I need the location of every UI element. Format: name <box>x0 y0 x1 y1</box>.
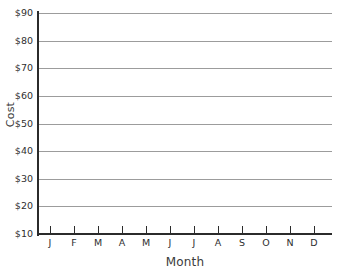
x-axis-tick-label: J <box>184 238 204 248</box>
x-axis-tick-label: M <box>88 238 108 248</box>
x-axis-tick-group: JFMAMJJASOND <box>0 0 342 279</box>
x-axis-tick-label: M <box>136 238 156 248</box>
x-axis-tick-label: A <box>208 238 228 248</box>
x-axis-tick-label: N <box>280 238 300 248</box>
x-axis-tick-label: A <box>112 238 132 248</box>
x-axis-tick-label: J <box>40 238 60 248</box>
x-axis-tick-mark <box>314 226 315 234</box>
x-axis-title: Month <box>38 255 332 269</box>
x-axis-tick-mark <box>194 226 195 234</box>
x-axis-tick-mark <box>242 226 243 234</box>
x-axis-tick-mark <box>50 226 51 234</box>
x-axis-tick-label: O <box>256 238 276 248</box>
x-axis-tick-mark <box>266 226 267 234</box>
x-axis-tick-mark <box>290 226 291 234</box>
x-axis-tick-label: F <box>64 238 84 248</box>
x-axis-tick-mark <box>170 226 171 234</box>
x-axis-tick-label: D <box>304 238 324 248</box>
x-axis-tick-mark <box>98 226 99 234</box>
x-axis-tick-label: J <box>160 238 180 248</box>
x-axis-tick-mark <box>74 226 75 234</box>
x-axis-tick-label: S <box>232 238 252 248</box>
x-axis-tick-mark <box>218 226 219 234</box>
x-axis-tick-mark <box>146 226 147 234</box>
x-axis-tick-mark <box>122 226 123 234</box>
blank-cost-vs-month-chart: Cost $90$80$70$60$50$40$30$20$10 JFMAMJJ… <box>0 0 342 279</box>
